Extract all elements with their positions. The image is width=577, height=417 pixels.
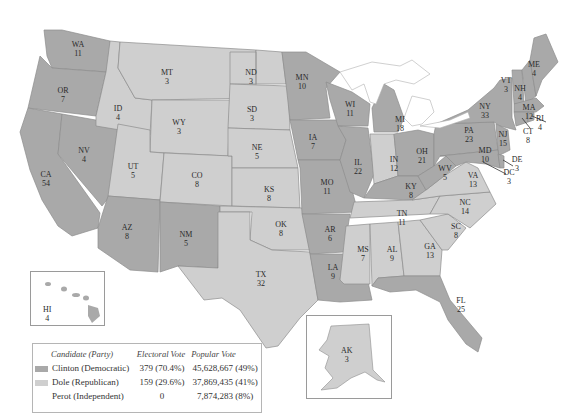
state-label-nc: NC14 <box>459 198 470 216</box>
legend-table: Candidate (Party) Electoral Vote Popular… <box>32 343 262 413</box>
state-label-in: IN12 <box>390 155 399 173</box>
state-NE <box>228 128 298 168</box>
state-ND <box>230 50 286 84</box>
state-OH <box>394 130 434 176</box>
state-label-mi: MI18 <box>395 115 405 133</box>
state-AR <box>302 214 350 254</box>
state-label-tx: TX32 <box>256 270 267 288</box>
alaska-inset: AK 3 <box>306 315 392 399</box>
legend-row-dole: Dole (Republican) 159 (29.6%) 37,869,435… <box>33 375 261 389</box>
legend-row-clinton: Clinton (Democratic) 379 (70.4%) 45,628,… <box>33 361 261 375</box>
alaska-label: AK 3 <box>341 346 353 364</box>
legend-header-popular: Popular Vote <box>189 347 261 361</box>
hawaii-label: HI 4 <box>43 305 51 323</box>
legend-row-perot: Perot (Independent) 0 7,874,283 (8%) <box>33 389 261 403</box>
state-label-va: VA13 <box>468 171 479 189</box>
swatch-republican <box>35 380 48 386</box>
swatch-democratic <box>35 366 48 372</box>
state-label-pa: PA23 <box>464 126 474 144</box>
state-label-nj: NJ15 <box>499 130 508 148</box>
state-label-ct: CT8 <box>523 127 533 145</box>
state-label-wi: WI11 <box>345 100 356 118</box>
swatch-none <box>35 394 48 400</box>
legend-header-electoral: Electoral Vote <box>135 347 189 361</box>
state-AZ <box>98 196 160 272</box>
hawaii-shape <box>31 272 104 325</box>
state-label-dc: DC3 <box>503 168 514 186</box>
state-label-fl: FL25 <box>456 296 465 314</box>
state-label-il: IL22 <box>354 158 362 176</box>
state-label-ri: RI4 <box>536 114 544 132</box>
state-WY <box>150 100 230 156</box>
legend-header-candidate: Candidate (Party) <box>33 347 135 361</box>
hawaii-inset: HI 4 <box>30 271 105 326</box>
state-SD <box>228 84 290 130</box>
